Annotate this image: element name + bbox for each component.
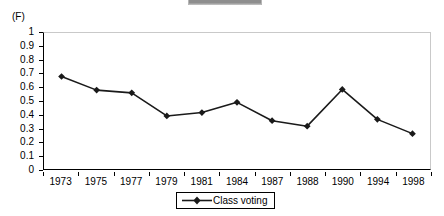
y-tick-mark (39, 170, 43, 171)
series-markers-class-voting (58, 73, 416, 137)
x-tick-label: 1984 (226, 177, 248, 187)
x-tick-mark (360, 172, 361, 176)
x-tick-label: 1973 (50, 177, 72, 187)
x-tick-label: 1994 (367, 177, 389, 187)
x-tick-mark (219, 172, 220, 176)
x-tick-mark (325, 172, 326, 176)
y-tick-label: 0.8 (20, 55, 34, 65)
y-axis: 10.90.80.70.60.50.40.30.20.10 (0, 32, 39, 170)
x-tick-label: 1975 (85, 177, 107, 187)
data-point-marker (409, 130, 416, 137)
y-tick-label: 0.5 (20, 96, 34, 106)
x-tick-label: 1990 (332, 177, 354, 187)
x-tick-label: 1981 (191, 177, 213, 187)
chart-legend: Class voting (176, 192, 275, 209)
y-tick-label: 1 (28, 27, 34, 37)
x-tick-mark (43, 172, 44, 176)
y-tick-label: 0 (28, 165, 34, 175)
legend-marker-icon (182, 195, 212, 206)
legend-label: Class voting (213, 195, 267, 206)
y-tick-label: 0.9 (20, 41, 34, 51)
x-tick-label: 1998 (402, 177, 424, 187)
x-axis: 1973197519771979198119841987198819901994… (43, 172, 432, 188)
y-tick-label: 0.7 (20, 68, 34, 78)
panel-label: (F) (12, 11, 25, 22)
y-tick-label: 0.4 (20, 110, 34, 120)
x-tick-label: 1977 (120, 177, 142, 187)
x-tick-mark (255, 172, 256, 176)
top-cutoff-bar (188, 0, 262, 5)
line-series-svg (44, 33, 430, 169)
y-tick-label: 0.2 (20, 137, 34, 147)
data-point-marker (93, 87, 100, 94)
y-tick-label: 0.3 (20, 124, 34, 134)
x-tick-label: 1988 (296, 177, 318, 187)
x-tick-label: 1987 (261, 177, 283, 187)
data-point-marker (199, 109, 206, 116)
x-tick-mark (396, 172, 397, 176)
x-tick-mark (78, 172, 79, 176)
y-tick-label: 0.6 (20, 82, 34, 92)
x-tick-mark (184, 172, 185, 176)
x-tick-mark (290, 172, 291, 176)
x-tick-label: 1979 (155, 177, 177, 187)
plot-area (43, 32, 431, 170)
data-point-marker (269, 117, 276, 124)
x-tick-mark (114, 172, 115, 176)
data-point-marker (234, 99, 241, 106)
data-point-marker (58, 73, 65, 80)
y-tick-label: 0.1 (20, 151, 34, 161)
x-tick-mark (149, 172, 150, 176)
x-tick-mark (431, 172, 432, 176)
